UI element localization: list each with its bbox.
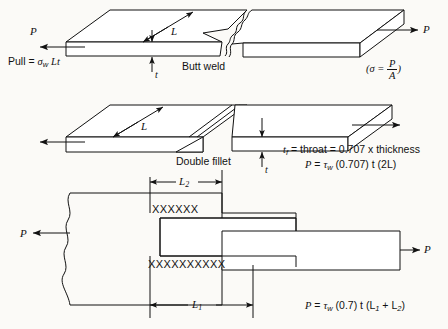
stress-symbol: σ [370, 63, 375, 74]
pull-lhs: Pull [8, 55, 26, 67]
lap-dimension-l2-label: L2 [179, 176, 189, 189]
lap-weld-row-top: XXXXXX [152, 203, 198, 215]
stress-denominator: A [387, 70, 397, 81]
double-fillet-caption: Double fillet [176, 156, 231, 167]
lap-force-right-label: P [424, 244, 431, 255]
pull-stress-subscript: w [43, 60, 48, 69]
butt-length-label: L [171, 26, 177, 37]
throat-body: = throat = 0.707 x thickness [291, 143, 420, 155]
lap-dimension-l1-label: L1 [192, 299, 202, 312]
l1-subscript: 1 [198, 303, 202, 312]
lap-weld-row-bottom: XXXXXXXXXX [148, 258, 225, 270]
stress-numerator: P [387, 58, 397, 70]
lap-terms-after: ) [401, 299, 405, 311]
fillet-length-label: L [141, 121, 147, 132]
butt-pull-formula: Pull = σw Lt [8, 56, 60, 68]
fillet-load-equals: = [314, 158, 320, 170]
fillet-load-lhs: P [305, 159, 311, 170]
lap-load-formula: P = τw (0.7) t (L1 + L2) [305, 300, 405, 312]
fillet-thickness-label: t [265, 165, 268, 175]
lap-terms-before: (0.7) t (L [336, 299, 376, 311]
lap-load-lhs: P [305, 300, 311, 311]
stress-definition-note: (σ = P A ) [366, 58, 401, 81]
throat-subscript: f [286, 148, 288, 157]
stress-fraction: P A [387, 58, 397, 81]
pull-terms: Lt [51, 56, 60, 67]
fillet-load-formula: P = τw (0.707) t (2L) [305, 159, 396, 171]
butt-force-right-label: P [423, 24, 430, 35]
fillet-load-terms: (0.707) t (2L) [336, 158, 397, 170]
lap-tau-subscript: w [327, 304, 332, 313]
lap-force-left-label: P [20, 228, 27, 239]
lap-load-equals: = [314, 299, 320, 311]
fillet-throat-formula: tf = throat = 0.707 x thickness [283, 144, 420, 156]
welded-joints-figure: P P L t Butt weld Pull = σw Lt (σ = P A … [0, 0, 448, 329]
lap-plus: + L [379, 299, 397, 311]
pull-equals: = [28, 55, 34, 67]
butt-thickness-label: t [155, 70, 158, 80]
l2-subscript: 2 [185, 180, 189, 189]
butt-weld-caption: Butt weld [182, 61, 225, 72]
stress-close-paren: ) [397, 63, 401, 74]
fillet-tau-subscript: w [327, 163, 332, 172]
butt-force-left-label: P [30, 26, 37, 37]
stress-equals: = [377, 63, 384, 74]
